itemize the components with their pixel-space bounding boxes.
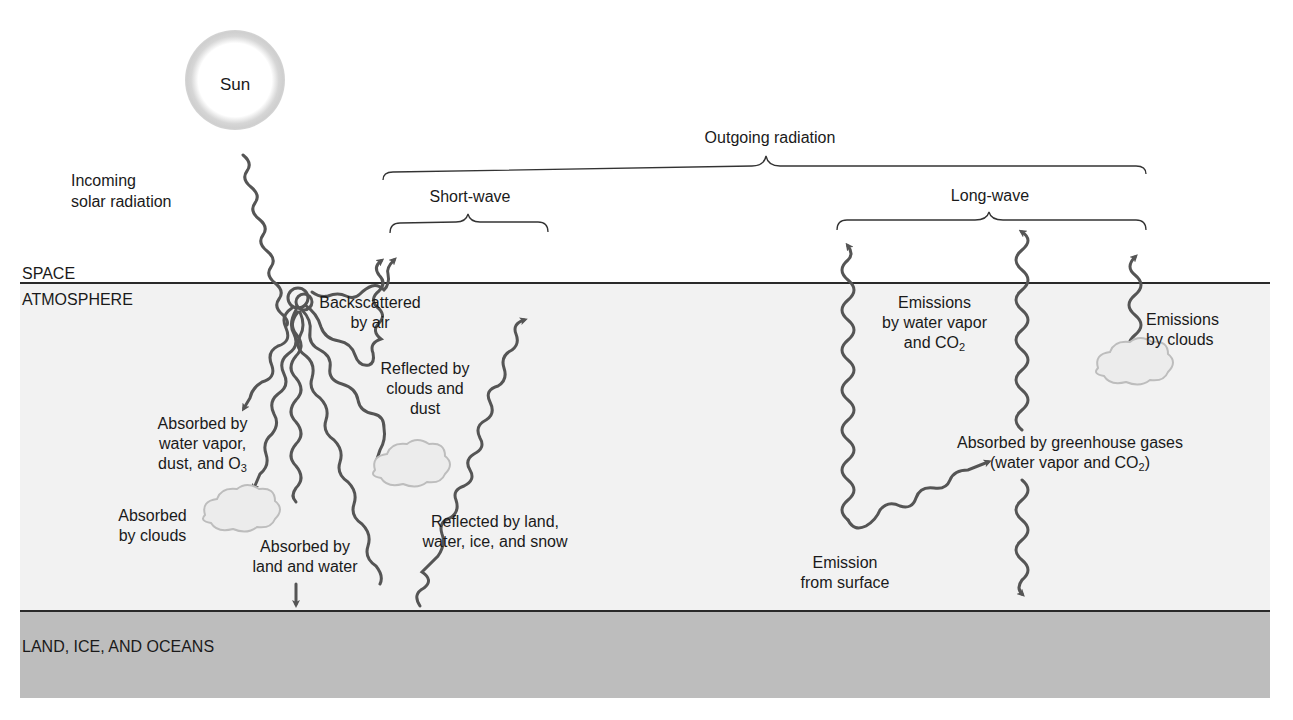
long-wave-label: Long-wave xyxy=(930,186,1050,206)
short-wave-label: Short-wave xyxy=(400,187,540,207)
reflected-land-label: Reflected by land, water, ice, and snow xyxy=(395,512,595,552)
absorbed-land-label: Absorbed by land and water xyxy=(235,537,375,577)
emissions-clouds-label: Emissions by clouds xyxy=(1146,310,1219,350)
absorbed-clouds-label: Absorbed by clouds xyxy=(105,506,200,546)
reflected-clouds-label: Reflected by clouds and dust xyxy=(365,359,485,419)
emissions-vapor-label: Emissions by water vapor and CO2 xyxy=(862,293,1007,353)
incoming-label-2: solar radiation xyxy=(71,192,172,212)
backscattered-label: Backscattered by air xyxy=(315,293,425,333)
space-label: SPACE xyxy=(22,264,75,284)
surface-label: LAND, ICE, AND OCEANS xyxy=(22,637,214,657)
absorbed-vapor-label: Absorbed by water vapor, dust, and O3 xyxy=(140,414,265,474)
absorbed-ghg-label: Absorbed by greenhouse gases (water vapo… xyxy=(920,433,1220,473)
outgoing-title: Outgoing radiation xyxy=(660,128,880,148)
emission-surface-label: Emission from surface xyxy=(780,553,910,593)
radiation-arrows xyxy=(0,0,1293,720)
incoming-label-1: Incoming xyxy=(71,171,136,191)
atmosphere-label: ATMOSPHERE xyxy=(22,290,133,310)
